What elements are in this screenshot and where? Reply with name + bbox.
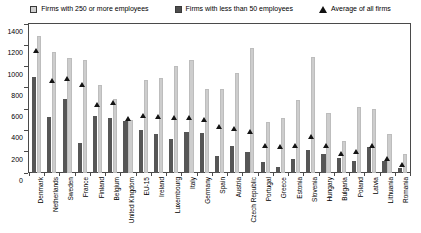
bar-small-firms <box>306 150 310 173</box>
x-axis-tick-mark <box>59 173 60 176</box>
x-axis-tick-mark <box>136 173 137 176</box>
y-axis-tick: 1000 <box>0 63 28 71</box>
x-axis-label: Slovenia <box>311 177 318 203</box>
x-axis-label-cell: Luxembourg <box>166 177 181 233</box>
x-axis-tick-mark <box>151 173 152 176</box>
average-marker-triangle-icon <box>155 114 161 119</box>
bar-small-firms <box>291 159 295 173</box>
bar-small-firms <box>215 156 219 173</box>
x-axis-label: France <box>82 177 89 198</box>
bar-small-firms <box>78 143 82 173</box>
y-axis-tick-label: 600 <box>11 113 28 121</box>
x-axis-label: Hungary <box>326 177 333 203</box>
average-marker-triangle-icon <box>384 156 390 161</box>
bar-small-firms <box>32 77 36 173</box>
bar-small-firms <box>63 99 67 174</box>
x-axis-label: Luxembourg <box>174 177 181 214</box>
legend-label-small-firms: Firms with less than 50 employees <box>186 5 293 13</box>
bar-large-firms <box>235 73 239 173</box>
x-axis-tick-mark <box>303 173 304 176</box>
bar-small-firms <box>367 147 371 173</box>
bar-small-firms <box>93 116 97 173</box>
average-marker-triangle-icon <box>64 76 70 81</box>
average-marker-triangle-icon <box>216 124 222 129</box>
bar-group <box>90 24 105 173</box>
bar-small-firms <box>47 117 51 173</box>
bar-large-firms <box>357 107 361 173</box>
x-axis-tick-mark <box>273 173 274 176</box>
x-axis-label-cell: Belgium <box>105 177 120 233</box>
x-axis-label: Lithuania <box>387 177 394 204</box>
bar-group <box>181 24 196 173</box>
x-axis-label-cell: Greece <box>273 177 288 233</box>
x-axis-label: Italy <box>189 177 196 190</box>
x-axis-label-cell: Romania <box>395 177 410 233</box>
y-axis-tick: 200 <box>0 148 28 156</box>
average-marker-triangle-icon <box>308 134 314 139</box>
x-axis-tick-mark <box>349 173 350 176</box>
x-axis-label: Germany <box>204 177 211 205</box>
x-axis-tick-mark <box>227 173 228 176</box>
bar-group <box>303 24 318 173</box>
bar-group <box>105 24 120 173</box>
x-axis-label-cell: Italy <box>181 177 196 233</box>
x-axis-label-cell: Sweden <box>59 177 74 233</box>
x-axis-label: Latvia <box>372 177 379 195</box>
legend-item-average: Average of all firms <box>319 5 391 13</box>
x-axis-label-cell: Germany <box>197 177 212 233</box>
x-axis-label: Estonia <box>296 177 303 200</box>
y-axis: 1400120010008006004002000 <box>0 23 28 174</box>
bar-large-firms <box>372 109 376 173</box>
bar-group <box>151 24 166 173</box>
bar-large-firms <box>220 89 224 173</box>
bar-group <box>318 24 333 173</box>
average-marker-triangle-icon <box>79 82 85 87</box>
x-axis-label: Sweden <box>67 177 74 202</box>
y-axis-tick: 0 <box>0 169 28 177</box>
x-axis-label: Spain <box>219 177 226 195</box>
bar-large-firms <box>159 78 163 173</box>
average-marker-triangle-icon <box>262 143 268 148</box>
average-marker-triangle-icon <box>323 143 329 148</box>
y-axis-tick: 600 <box>0 105 28 113</box>
x-axis-label: Netherlands <box>52 177 59 213</box>
x-axis-label-cell: Spain <box>212 177 227 233</box>
x-axis-label-cell: Denmark <box>29 177 44 233</box>
x-axis-label-cell: Bulgaria <box>334 177 349 233</box>
square-light-icon <box>30 6 37 13</box>
x-axis-tick-mark <box>410 173 411 176</box>
chart-legend: Firms with 250 or more employees Firms w… <box>0 2 421 16</box>
y-axis-tick: 1200 <box>0 41 28 49</box>
bar-small-firms <box>169 139 173 173</box>
x-axis-tick-mark <box>380 173 381 176</box>
bar-group <box>364 24 379 173</box>
x-axis-label: Belgium <box>113 177 120 201</box>
bar-group <box>166 24 181 173</box>
bar-group <box>334 24 349 173</box>
average-marker-triangle-icon <box>353 149 359 154</box>
bar-group <box>258 24 273 173</box>
bar-group <box>120 24 135 173</box>
average-marker-triangle-icon <box>94 102 100 107</box>
bar-large-firms <box>296 100 300 173</box>
y-axis-tick-label: 200 <box>11 156 28 164</box>
x-axis-label-cell: France <box>75 177 90 233</box>
bar-group <box>212 24 227 173</box>
x-axis-tick-mark <box>364 173 365 176</box>
bar-large-firms <box>205 89 209 173</box>
bar-large-firms <box>250 48 254 173</box>
bar-small-firms <box>184 132 188 174</box>
legend-item-small-firms: Firms with less than 50 employees <box>175 5 293 13</box>
x-axis-label: Romania <box>402 177 409 204</box>
x-axis-label: Denmark <box>37 177 44 204</box>
x-axis-label-cell: Estonia <box>288 177 303 233</box>
average-marker-triangle-icon <box>171 115 177 120</box>
bar-groups <box>29 24 410 173</box>
bar-large-firms <box>342 141 346 173</box>
average-marker-triangle-icon <box>201 117 207 122</box>
bar-group <box>75 24 90 173</box>
bar-small-firms <box>261 162 265 173</box>
average-marker-triangle-icon <box>140 113 146 118</box>
bar-small-firms <box>321 154 325 173</box>
average-marker-triangle-icon <box>33 48 39 53</box>
